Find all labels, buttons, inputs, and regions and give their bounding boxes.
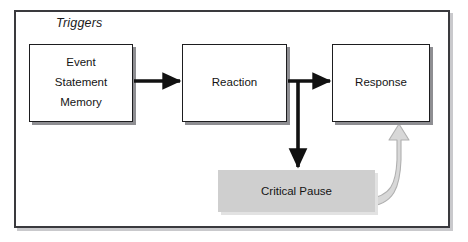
node-critical-pause: Critical Pause	[218, 170, 375, 212]
node-reaction: Reaction	[182, 44, 287, 122]
node-triggers-source-line-memory: Memory	[60, 93, 102, 113]
node-reaction-label: Reaction	[212, 73, 257, 93]
node-triggers-source: Event Statement Memory	[29, 44, 133, 122]
node-response: Response	[332, 44, 430, 122]
frame-title: Triggers	[56, 16, 103, 30]
diagram-canvas: Triggers Event Statement Memory Reaction…	[0, 0, 468, 242]
node-response-label: Response	[355, 73, 407, 93]
node-critical-pause-label: Critical Pause	[261, 185, 332, 197]
node-triggers-source-line-statement: Statement	[55, 73, 107, 93]
node-triggers-source-line-event: Event	[66, 53, 95, 73]
